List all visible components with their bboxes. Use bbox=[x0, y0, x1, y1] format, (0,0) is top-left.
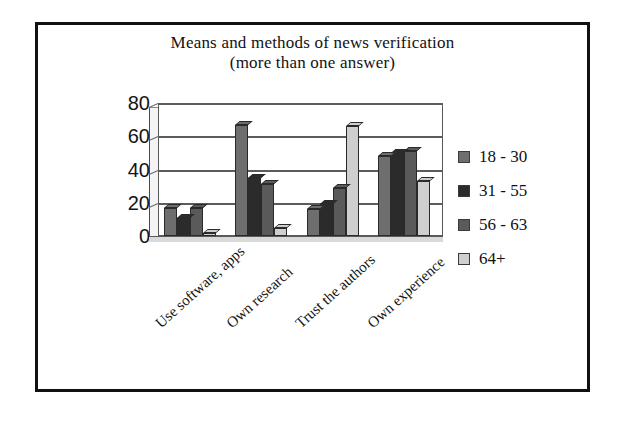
bar-face bbox=[190, 208, 203, 236]
plot-area bbox=[158, 103, 443, 236]
legend-item[interactable]: 64+ bbox=[458, 242, 583, 276]
bar-face bbox=[274, 228, 287, 236]
bar bbox=[391, 153, 404, 236]
bar-face bbox=[346, 126, 359, 236]
legend-label: 64+ bbox=[479, 250, 506, 268]
bar-face bbox=[261, 184, 274, 236]
bar bbox=[248, 178, 261, 236]
bar bbox=[333, 188, 346, 236]
bar-face bbox=[164, 208, 177, 236]
bar bbox=[261, 184, 274, 236]
legend-swatch-icon bbox=[458, 219, 470, 231]
bar bbox=[203, 233, 216, 236]
bar bbox=[164, 208, 177, 236]
x-axis-label: Trust the authors bbox=[292, 251, 378, 331]
bar bbox=[177, 218, 190, 236]
legend-label: 56 - 63 bbox=[479, 216, 527, 234]
legend: 18 - 3031 - 5556 - 6364+ bbox=[458, 140, 583, 276]
chart-title-line-1: Means and methods of news verification bbox=[171, 33, 455, 52]
legend-item[interactable]: 56 - 63 bbox=[458, 208, 583, 242]
bar-face bbox=[307, 209, 320, 236]
bar bbox=[307, 209, 320, 236]
bar-group bbox=[372, 103, 443, 236]
bar-face bbox=[417, 181, 430, 236]
y-axis-tick-label: 20 bbox=[128, 193, 150, 213]
bar bbox=[320, 204, 333, 236]
bar-face bbox=[235, 125, 248, 236]
chart-title-line-2: (more than one answer) bbox=[38, 53, 587, 73]
bar bbox=[190, 208, 203, 236]
legend-swatch-icon bbox=[458, 253, 470, 265]
bar-group bbox=[301, 103, 372, 236]
chart-title: Means and methods of news verification (… bbox=[38, 33, 587, 73]
bar-group bbox=[158, 103, 229, 236]
legend-label: 18 - 30 bbox=[479, 148, 527, 166]
bar bbox=[404, 151, 417, 236]
bar-face bbox=[203, 233, 216, 236]
y-axis-tick-label: 80 bbox=[128, 93, 150, 113]
bar bbox=[346, 126, 359, 236]
bar bbox=[378, 156, 391, 236]
legend-item[interactable]: 31 - 55 bbox=[458, 174, 583, 208]
legend-label: 31 - 55 bbox=[479, 182, 527, 200]
bar bbox=[417, 181, 430, 236]
bar-face bbox=[404, 151, 417, 236]
y-axis-tick-label: 60 bbox=[128, 126, 150, 146]
legend-item[interactable]: 18 - 30 bbox=[458, 140, 583, 174]
legend-swatch-icon bbox=[458, 151, 470, 163]
bar-face bbox=[177, 218, 190, 236]
figure-frame: Means and methods of news verification (… bbox=[35, 22, 590, 392]
bar bbox=[235, 125, 248, 236]
x-axis-label: Use software, apps bbox=[152, 243, 247, 331]
bar-face bbox=[378, 156, 391, 236]
x-axis-label: Own experience bbox=[364, 254, 447, 331]
bar-face bbox=[248, 178, 261, 236]
plot-floor bbox=[149, 236, 443, 242]
bar-face bbox=[333, 188, 346, 236]
y-axis-tick-label: 40 bbox=[128, 160, 150, 180]
bar-face bbox=[320, 204, 333, 236]
x-axis-label: Own research bbox=[223, 264, 295, 331]
y-axis: 806040200 bbox=[98, 97, 150, 243]
bar-group bbox=[229, 103, 300, 236]
bar bbox=[274, 228, 287, 236]
bar-face bbox=[391, 153, 404, 236]
legend-swatch-icon bbox=[458, 185, 470, 197]
